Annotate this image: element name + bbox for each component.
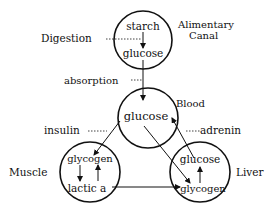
liver-glycogen-label: glycogen bbox=[180, 183, 226, 194]
insulin-label: insulin bbox=[44, 124, 80, 136]
blood-label: Blood bbox=[176, 98, 206, 109]
alimentary-canal-label-2: Canal bbox=[189, 30, 218, 41]
starch-label: starch bbox=[126, 20, 160, 32]
liver-glucose-to-blood-arrow bbox=[172, 118, 194, 158]
muscle-label: Muscle bbox=[9, 166, 47, 178]
adrenin-label: adrenin bbox=[200, 124, 241, 136]
alimentary-glucose-label: glucose bbox=[123, 47, 164, 59]
liver-label: Liver bbox=[236, 166, 264, 178]
liver-glucose-label: glucose bbox=[180, 153, 221, 165]
muscle-glycogen-label: glycogen bbox=[67, 153, 113, 164]
alimentary-canal-label-1: Alimentary bbox=[177, 19, 234, 30]
absorption-label: absorption bbox=[64, 75, 119, 86]
digestion-label: Digestion bbox=[41, 32, 92, 44]
blood-to-muscle-arrow bbox=[94, 121, 120, 155]
blood-glucose-label: glucose bbox=[124, 109, 169, 123]
lactic-acid-label: lactic a bbox=[68, 182, 107, 194]
carbohydrate-metabolism-diagram: starch glucose Alimentary Canal Digestio… bbox=[0, 0, 269, 209]
